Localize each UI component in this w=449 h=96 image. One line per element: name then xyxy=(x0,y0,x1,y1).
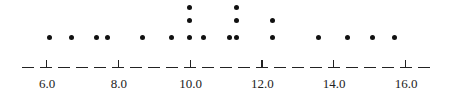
data-dot xyxy=(270,18,275,23)
data-dot xyxy=(201,35,206,40)
axis-tick xyxy=(261,60,262,68)
data-dot xyxy=(187,18,192,23)
data-dot xyxy=(270,35,275,40)
axis-dash xyxy=(94,67,106,68)
tick-label: 12.0 xyxy=(251,76,274,92)
data-dot xyxy=(140,35,145,40)
data-dot xyxy=(187,5,192,10)
axis-tick xyxy=(190,60,191,68)
axis-dash xyxy=(310,67,322,68)
tick-label: 10.0 xyxy=(179,76,202,92)
axis-dash xyxy=(274,67,286,68)
axis-dash xyxy=(166,67,178,68)
data-dot xyxy=(234,18,239,23)
data-dot xyxy=(392,35,397,40)
tick-label: 8.0 xyxy=(111,76,127,92)
axis-dash xyxy=(148,67,160,68)
axis-tick xyxy=(405,60,406,68)
axis-dash xyxy=(220,67,232,68)
data-dot xyxy=(105,35,110,40)
axis-dash xyxy=(238,67,250,68)
data-dot xyxy=(47,35,52,40)
data-dot xyxy=(316,35,321,40)
data-dot xyxy=(345,35,350,40)
data-dot xyxy=(227,35,232,40)
axis-dash xyxy=(22,67,34,68)
data-dot xyxy=(187,35,192,40)
axis-dash xyxy=(58,67,70,68)
data-dot xyxy=(234,5,239,10)
axis-dash xyxy=(364,67,376,68)
data-dot xyxy=(69,35,74,40)
data-dot xyxy=(370,35,375,40)
axis-dash xyxy=(346,67,358,68)
data-dot xyxy=(169,35,174,40)
axis-tick xyxy=(333,60,334,68)
data-dot xyxy=(94,35,99,40)
axis-tick xyxy=(46,60,47,68)
axis-dash xyxy=(418,67,430,68)
axis-dash xyxy=(292,67,304,68)
tick-label: 16.0 xyxy=(395,76,418,92)
dot-plot: 6.08.010.012.014.016.0 xyxy=(0,0,449,96)
data-dot xyxy=(234,35,239,40)
axis-dash xyxy=(382,67,394,68)
axis-dash xyxy=(76,67,88,68)
axis-dash xyxy=(130,67,142,68)
axis-tick xyxy=(118,60,119,68)
tick-label: 14.0 xyxy=(323,76,346,92)
axis-dash xyxy=(202,67,214,68)
tick-label: 6.0 xyxy=(39,76,55,92)
